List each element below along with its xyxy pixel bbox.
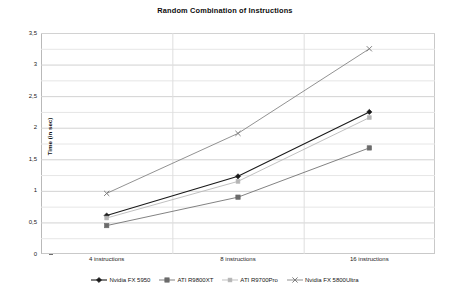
legend-label: Nvidia FX 5950 xyxy=(109,277,150,283)
y-axis-tick-label: 0,5 xyxy=(29,219,37,226)
data-point-marker xyxy=(228,278,232,282)
data-point-marker xyxy=(236,179,240,183)
series-0 xyxy=(104,109,372,218)
data-point-marker xyxy=(367,146,371,150)
data-point-marker xyxy=(367,116,371,120)
legend-item[interactable]: ATI R9800XT xyxy=(159,276,213,284)
y-axis-title: Time (in sec) xyxy=(46,94,53,180)
y-axis-tick-label: 0 xyxy=(34,251,37,258)
y-axis-tick-label: 1 xyxy=(34,187,37,194)
y-axis-tick-mark xyxy=(49,254,53,255)
data-point-marker xyxy=(104,223,108,227)
x-axis-tick-label: 8 instructions xyxy=(220,256,255,262)
series-line xyxy=(107,112,370,216)
data-point-marker xyxy=(165,278,169,282)
data-point-marker xyxy=(367,46,372,51)
legend-item[interactable]: Nvidia FX 5800Ultra xyxy=(287,276,359,284)
data-point-marker xyxy=(97,277,102,282)
data-point-marker xyxy=(105,216,109,220)
x-axis-tick-label: 4 instructions xyxy=(89,256,124,262)
series-1 xyxy=(104,146,371,228)
chart-legend: Nvidia FX 5950ATI R9800XTATI R9700ProNvi… xyxy=(0,276,450,284)
y-axis-tick-label: 2,5 xyxy=(29,93,37,100)
y-axis-tick-label: 2 xyxy=(34,124,37,131)
legend-marker-icon xyxy=(222,276,238,284)
legend-item[interactable]: Nvidia FX 5950 xyxy=(91,276,150,284)
chart-container: Random Combination of Instructions 00,51… xyxy=(0,0,450,300)
chart-plot-svg xyxy=(41,33,435,254)
y-axis-tick-labels: 00,511,522,533,5 xyxy=(12,33,37,254)
data-point-marker xyxy=(367,109,372,114)
legend-label: ATI R9700Pro xyxy=(240,277,278,283)
series-line xyxy=(107,118,370,218)
y-axis-tick-label: 3,5 xyxy=(29,30,37,37)
legend-marker-icon xyxy=(159,276,175,284)
legend-marker-icon xyxy=(287,276,303,284)
plot-wrapper: Time (in sec) xyxy=(41,33,435,254)
legend-label: ATI R9800XT xyxy=(177,277,213,283)
legend-label: Nvidia FX 5800Ultra xyxy=(305,277,359,283)
x-axis-tick-label: 16 instructions xyxy=(350,256,389,262)
data-point-marker xyxy=(235,174,240,179)
legend-item[interactable]: ATI R9700Pro xyxy=(222,276,278,284)
x-axis-tick-labels: 4 instructions8 instructions16 instructi… xyxy=(41,256,435,268)
data-point-marker xyxy=(235,131,240,136)
series-line xyxy=(107,49,370,194)
legend-marker-icon xyxy=(91,276,107,284)
y-axis-tick-label: 3 xyxy=(34,61,37,68)
chart-title: Random Combination of Instructions xyxy=(0,6,450,15)
data-point-marker xyxy=(236,195,240,199)
y-axis-tick-label: 1,5 xyxy=(29,156,37,163)
